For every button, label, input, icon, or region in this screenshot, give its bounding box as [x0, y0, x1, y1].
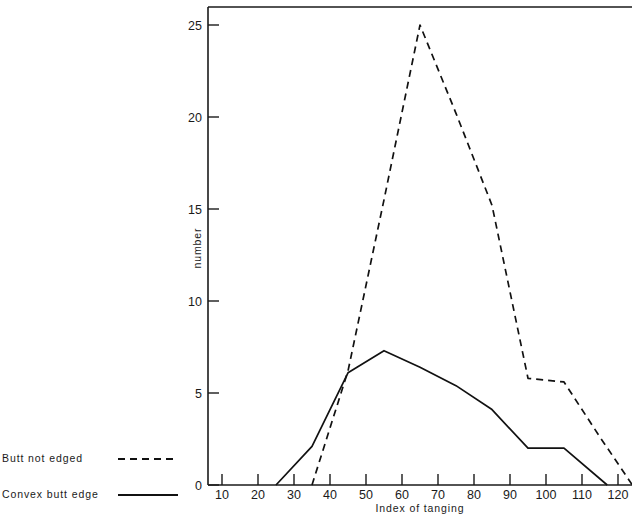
chart-figure: 0510152025 102030405060708090100110120 I… — [0, 0, 632, 530]
x-tick-label-90: 90 — [503, 488, 517, 502]
legend-label-butt-not-edged: Butt not edged — [2, 452, 83, 464]
x-tick-label-60: 60 — [395, 488, 409, 502]
y-tick-label-5: 5 — [195, 387, 202, 401]
legend-swatch-dashed — [118, 457, 178, 461]
y-tick-label-25: 25 — [188, 19, 202, 33]
y-tick-label-10: 10 — [188, 295, 202, 309]
legend-label-convex-butt-edge: Convex butt edge — [2, 488, 99, 500]
x-tick-label-80: 80 — [467, 488, 481, 502]
y-tick-label-15: 15 — [188, 203, 202, 217]
x-axis-title: Index of tanging — [375, 502, 464, 514]
series-line-butt-not-edged — [312, 25, 632, 485]
y-tick-label-0: 0 — [195, 479, 202, 493]
series-line-convex-butt-edge — [276, 351, 607, 485]
y-axis-ticks — [208, 25, 219, 485]
x-tick-label-20: 20 — [251, 488, 265, 502]
x-axis-tick-labels: 102030405060708090100110120 — [215, 488, 628, 502]
x-tick-label-50: 50 — [359, 488, 373, 502]
x-tick-label-30: 30 — [287, 488, 301, 502]
legend-swatch-solid — [118, 493, 178, 497]
line-chart-plot: 0510152025 102030405060708090100110120 I… — [0, 0, 632, 530]
x-tick-label-100: 100 — [536, 488, 557, 502]
x-tick-label-110: 110 — [572, 488, 592, 502]
y-tick-label-20: 20 — [188, 111, 202, 125]
x-tick-label-120: 120 — [608, 488, 629, 502]
x-tick-label-40: 40 — [323, 488, 337, 502]
y-axis-title: number — [191, 227, 203, 268]
x-tick-label-70: 70 — [431, 488, 445, 502]
x-tick-label-10: 10 — [215, 488, 229, 502]
